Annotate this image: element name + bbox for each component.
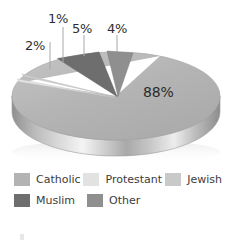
callout-label-1pct: 1% (48, 12, 68, 25)
callout-label-2pct: 2% (25, 39, 45, 52)
legend-item-other[interactable]: Other (87, 194, 140, 207)
callout-label-4pct: 4% (107, 22, 127, 35)
legend-label-other: Other (109, 195, 140, 206)
legend-item-catholic[interactable]: Catholic (14, 173, 81, 186)
legend-label-muslim: Muslim (36, 195, 75, 206)
legend-row-1: Catholic Protestant Jewish (14, 169, 222, 190)
legend: Catholic Protestant Jewish Muslim Other (14, 169, 222, 211)
legend-item-jewish[interactable]: Jewish (165, 173, 222, 186)
legend-label-jewish: Jewish (187, 174, 222, 185)
legend-swatch-catholic (14, 173, 30, 186)
legend-swatch-other (87, 194, 103, 207)
legend-item-muslim[interactable]: Muslim (14, 194, 75, 207)
callout-label-88pct: 88% (143, 85, 174, 99)
page-artifact-mark (20, 234, 24, 240)
legend-label-catholic: Catholic (36, 174, 81, 185)
legend-label-protestant: Protestant (105, 174, 162, 185)
callout-label-5pct: 5% (72, 22, 92, 35)
pie-chart-figure: 2% 1% 5% 4% 88% Catholic Protestant Jewi… (0, 0, 232, 245)
legend-swatch-jewish (165, 173, 181, 186)
legend-item-protestant[interactable]: Protestant (83, 173, 162, 186)
pie-graphic: 2% 1% 5% 4% 88% (0, 0, 232, 168)
legend-swatch-protestant (83, 173, 99, 186)
legend-row-2: Muslim Other (14, 190, 222, 211)
legend-swatch-muslim (14, 194, 30, 207)
